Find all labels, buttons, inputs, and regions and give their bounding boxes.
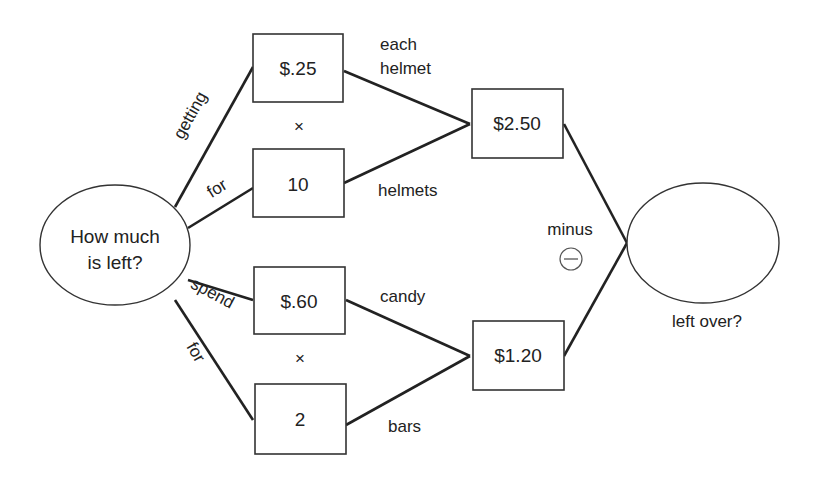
label-bars: bars [388,417,421,436]
label-candy: candy [380,287,426,306]
label-left-over: left over? [672,312,742,331]
svg-text:$.25: $.25 [280,58,317,79]
branch-label-for-top: for [204,175,231,202]
line-for-bottom [175,300,253,420]
box-helmet-count: 10 [253,149,344,217]
start-node-line2: is left? [88,252,143,273]
end-node [627,183,779,303]
box-result-candy: $1.20 [473,321,564,390]
line-bars [346,356,470,425]
line-candy [346,300,470,356]
svg-text:10: 10 [287,174,308,195]
svg-text:$2.50: $2.50 [493,113,541,134]
label-helmet: helmet [380,59,431,78]
branch-label-for-bottom: for [183,339,210,366]
box-bar-count: 2 [255,384,346,454]
label-helmets: helmets [378,181,438,200]
box-price-helmet: $.25 [253,34,343,102]
box-price-candy: $.60 [254,267,345,334]
line-each-helmet [344,71,470,124]
start-node: How much is left? [40,185,190,305]
minus-circle-icon [560,248,582,270]
label-each: each [380,35,417,54]
line-result-bottom [564,243,627,356]
branch-label-getting: getting [170,88,211,142]
line-helmets [344,124,470,183]
start-node-line1: How much [70,226,160,247]
svg-text:$.60: $.60 [281,291,318,312]
label-minus: minus [547,220,592,239]
box-result-helmets: $2.50 [472,89,563,158]
branch-label-spend: spend [188,274,238,313]
svg-text:2: 2 [295,409,306,430]
diagram-canvas: How much is left? getting for spend for … [0,0,826,477]
times-operator-top: × [294,117,304,136]
svg-text:$1.20: $1.20 [494,345,542,366]
times-operator-bottom: × [295,349,305,368]
